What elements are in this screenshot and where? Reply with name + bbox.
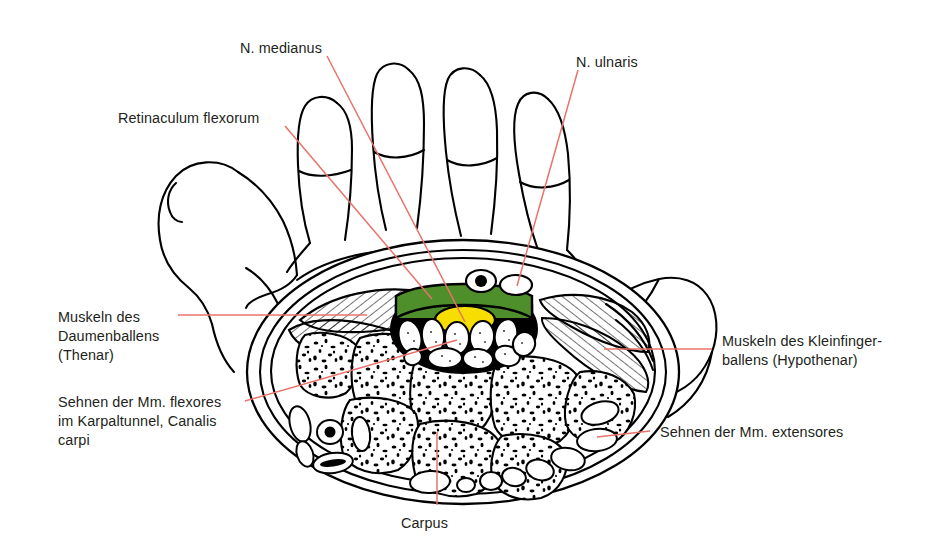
tendon [428, 348, 462, 368]
label-retinaculum-flexorum: Retinaculum flexorum [118, 108, 259, 127]
carpal-bone-1 [297, 333, 359, 398]
thumb [159, 162, 238, 324]
anatomy-illustration [0, 0, 931, 550]
n-ulnaris [500, 275, 532, 295]
thumb-nailfold [168, 183, 182, 222]
label-flexores: Sehnen der Mm. flexores im Karpaltunnel,… [58, 392, 233, 449]
label-thenar-line1: Muskeln des [58, 307, 159, 326]
label-thenar: Muskeln des Daumenballens (Thenar) [58, 307, 167, 364]
finger-ring-joint [447, 158, 497, 165]
finger-middle-joint [374, 150, 424, 157]
finger-index [298, 97, 337, 243]
extensor-tendon [480, 472, 502, 490]
label-hypothenar: Muskeln des Kleinfinger- ballens (Hypoth… [722, 331, 894, 369]
label-flexores-line2: im Karpaltunnel, Canalis [58, 411, 221, 430]
label-flexores-line1: Sehnen der Mm. flexores [58, 392, 221, 411]
palm-left-edge [287, 243, 310, 272]
label-n-medianus: N. medianus [240, 38, 322, 57]
anatomy-figure: N. medianus N. ulnaris Retinaculum flexo… [0, 0, 931, 550]
carpal-tunnel-group [391, 284, 539, 373]
finger-middle [372, 64, 409, 230]
label-n-ulnaris: N. ulnaris [576, 52, 638, 71]
finger-ring [444, 68, 480, 236]
label-thenar-line2: Daumenballens [58, 326, 159, 345]
a-ulnaris-lumen [475, 275, 487, 287]
label-flexores-line3: carpi [58, 430, 221, 449]
label-extensores: Sehnen der Mm. extensores [660, 422, 843, 441]
label-hypothenar-line1: Muskeln des Kleinfinger- [722, 331, 882, 350]
label-carpus: Carpus [401, 513, 448, 532]
label-hypothenar-line2: ballens (Hypothenar) [722, 350, 882, 369]
finger-little [514, 93, 548, 250]
extensor-tendon [457, 478, 475, 492]
thumb-base [212, 324, 234, 372]
a-radialis-lumen [325, 427, 336, 438]
label-thenar-line3: (Thenar) [58, 345, 159, 364]
